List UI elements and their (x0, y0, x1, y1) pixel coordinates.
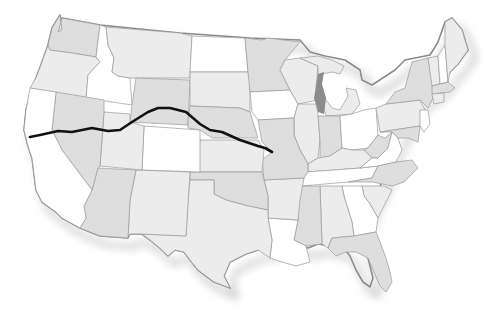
state-arkansas (264, 178, 304, 220)
state-connecticut (432, 93, 444, 104)
state-new-mexico (128, 170, 190, 238)
us-map-svg (0, 0, 504, 334)
state-south-dakota (190, 72, 250, 112)
state-montana (106, 27, 192, 78)
state-florida (328, 232, 392, 292)
state-new-jersey (420, 110, 430, 132)
us-map (0, 0, 504, 334)
state-maine (445, 18, 468, 82)
state-new-york (386, 58, 434, 108)
state-colorado (142, 126, 200, 172)
state-iowa (250, 90, 298, 120)
state-north-dakota (190, 36, 248, 72)
states (24, 15, 468, 292)
